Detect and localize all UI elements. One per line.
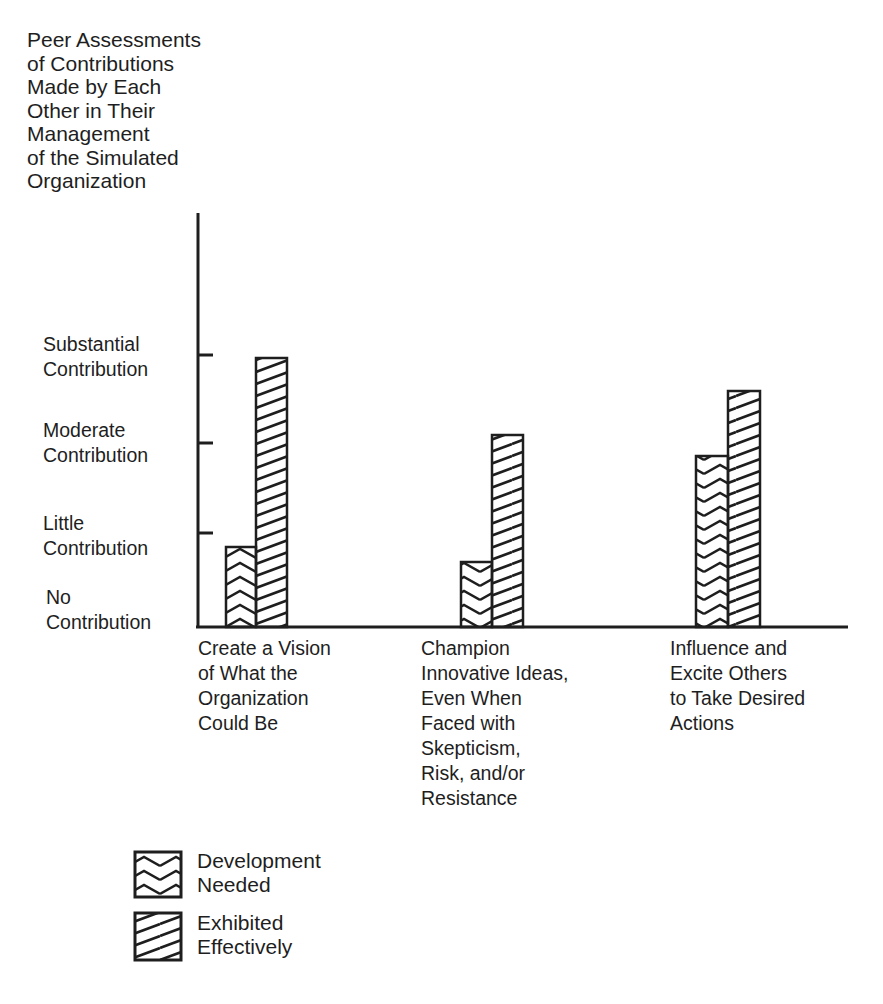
- bar-exhibited-effectively: [492, 435, 523, 627]
- category-label-create-vision: Create a Vision of What the Organization…: [198, 636, 331, 736]
- bar-group-create-vision: [226, 358, 287, 627]
- legend-swatch-diagonal-icon: [135, 913, 181, 960]
- bar-development-needed: [696, 456, 728, 627]
- legend-label: Exhibited Effectively: [197, 911, 292, 958]
- bar-group-influence-others: [696, 391, 760, 627]
- bar-exhibited-effectively: [728, 391, 760, 627]
- category-label-influence-others: Influence and Excite Others to Take Desi…: [670, 636, 805, 736]
- legend-swatch-chevron-icon: [135, 852, 181, 897]
- bar-exhibited-effectively: [256, 358, 287, 627]
- bar-development-needed: [461, 562, 492, 627]
- legend-item-exhibited-effectively: Exhibited Effectively: [183, 914, 292, 958]
- chart-plot-area: [0, 0, 883, 1004]
- bar-group-champion-ideas: [461, 435, 523, 627]
- category-label-champion-ideas: Champion Innovative Ideas, Even When Fac…: [421, 636, 568, 811]
- legend-label: Development Needed: [197, 849, 321, 896]
- legend-item-development-needed: Development Needed: [183, 852, 321, 896]
- bar-development-needed: [226, 547, 256, 627]
